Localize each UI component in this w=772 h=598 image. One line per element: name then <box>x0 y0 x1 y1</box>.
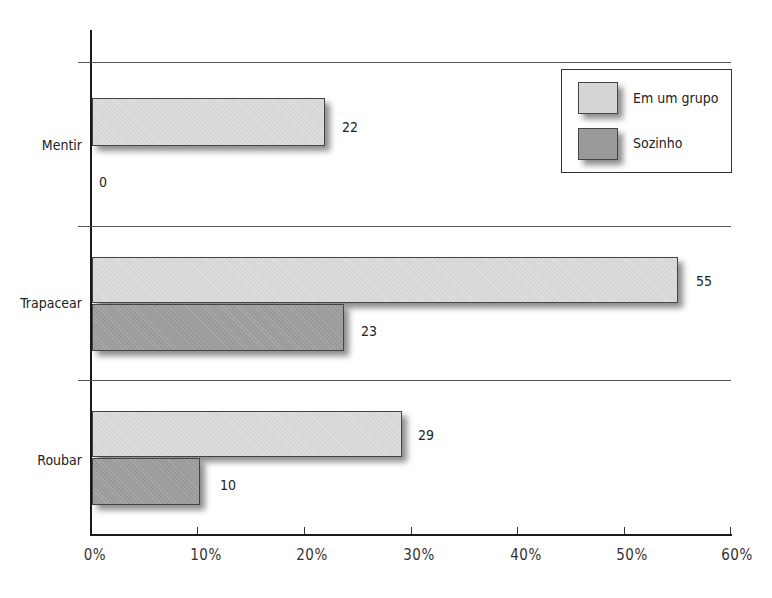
category-label-mentir: Mentir <box>42 137 82 153</box>
x-tick <box>517 527 518 534</box>
x-tick-label: 40% <box>510 546 542 564</box>
category-separator <box>78 62 731 63</box>
legend-label-alone: Sozinho <box>633 135 683 151</box>
x-tick-label: 20% <box>296 546 328 564</box>
value-label: 0 <box>99 174 107 190</box>
x-tick <box>730 527 731 534</box>
category-label-trapacear: Trapacear <box>20 295 82 311</box>
x-tick-label: 60% <box>721 546 753 564</box>
bar-mentir-group <box>92 98 325 146</box>
bar-trapacear-alone <box>92 304 344 351</box>
category-separator <box>78 380 731 381</box>
category-label-roubar: Roubar <box>37 452 82 468</box>
legend-label-group: Em um grupo <box>633 90 718 106</box>
bar-trapacear-group <box>92 257 678 303</box>
x-tick-label: 0% <box>84 546 106 564</box>
x-tick <box>624 527 625 534</box>
x-tick-label: 50% <box>616 546 648 564</box>
x-tick <box>411 527 412 534</box>
category-separator <box>78 226 731 227</box>
bar-roubar-group <box>92 411 402 457</box>
x-tick-label: 30% <box>403 546 435 564</box>
x-tick <box>304 527 305 534</box>
value-label: 10 <box>220 477 236 493</box>
value-label: 22 <box>342 119 358 135</box>
bar-roubar-alone <box>92 458 200 505</box>
value-label: 55 <box>696 273 712 289</box>
legend-swatch-group <box>578 82 618 114</box>
legend-swatch-alone <box>578 128 618 160</box>
value-label: 23 <box>361 323 377 339</box>
value-label: 29 <box>418 427 434 443</box>
x-tick-label: 10% <box>190 546 222 564</box>
legend: Em um grupo Sozinho <box>561 69 732 173</box>
x-axis <box>90 534 732 536</box>
x-tick <box>197 527 198 534</box>
